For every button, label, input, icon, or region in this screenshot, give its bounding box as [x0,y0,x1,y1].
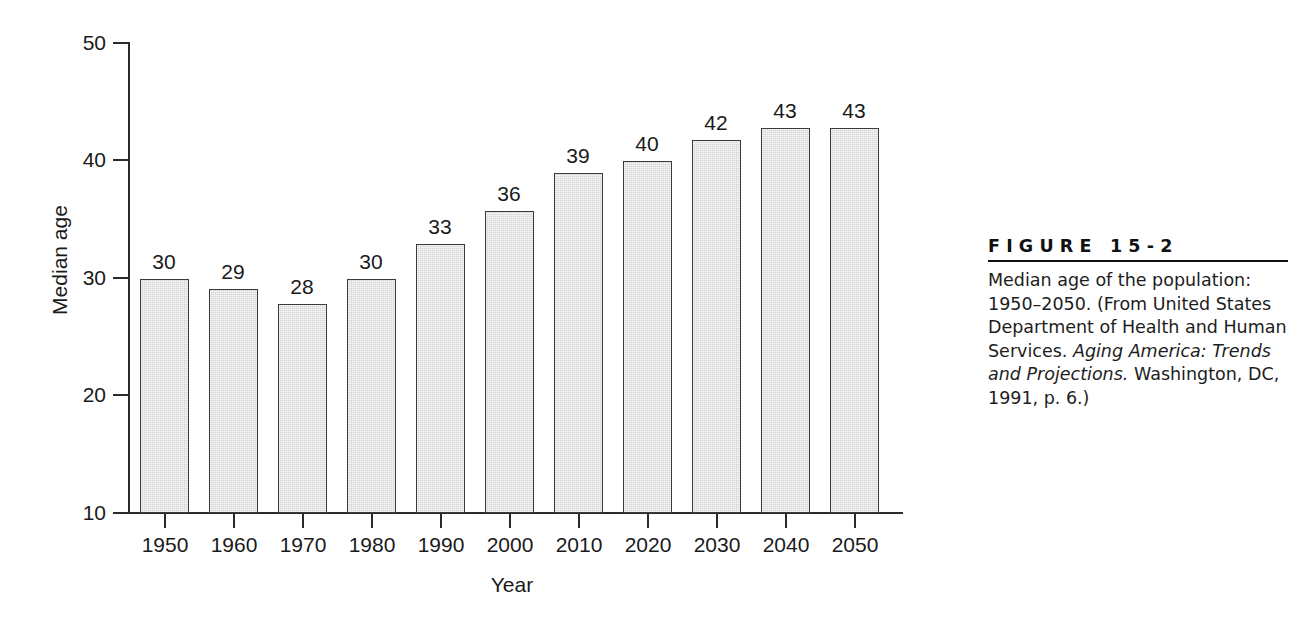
caption-line-5-italic: and Projections. [988,364,1128,384]
caption-line-5-post: Washington, DC, [1128,364,1279,384]
y-axis-title: Median age [48,160,72,360]
y-axis-line [128,42,130,513]
figure-root: 50 40 30 20 10 30 29 28 30 33 36 39 40 4… [0,0,1298,630]
y-tick-50 [113,42,128,44]
y-tick-20 [113,394,128,396]
bar-1990[interactable] [416,244,465,513]
x-tick-1970 [302,514,304,528]
caption-line-6: 1991, p. 6.) [988,388,1089,408]
bar-1960[interactable] [209,289,258,513]
x-tick-label-2050: 2050 [810,533,900,557]
x-tick-2030 [716,514,718,528]
x-tick-2050 [854,514,856,528]
x-tick-1950 [164,514,166,528]
x-tick-1960 [233,514,235,528]
bar-1970[interactable] [278,304,327,513]
y-tick-40 [113,159,128,161]
caption-line-2: 1950–2050. (From United States [988,294,1271,314]
caption-divider [988,260,1288,262]
bar-2030[interactable] [692,140,741,513]
bar-1980[interactable] [347,279,396,513]
bar-2000[interactable] [485,211,534,513]
bar-chart: 50 40 30 20 10 30 29 28 30 33 36 39 40 4… [0,0,960,630]
bar-1950[interactable] [140,279,189,513]
x-tick-1980 [371,514,373,528]
bar-value-2020: 40 [602,132,692,156]
y-tick-label-20: 20 [58,383,106,407]
bar-2050[interactable] [830,128,879,513]
x-tick-1990 [440,514,442,528]
caption-body: Median age of the population: 1950–2050.… [988,269,1288,411]
caption-line-4-italic: Aging America: Trends [1073,341,1271,361]
y-tick-label-10: 10 [58,501,106,525]
caption-line-4-pre: Services. [988,341,1073,361]
caption-line-3: Department of Health and Human [988,317,1287,337]
bar-value-1990: 33 [395,215,485,239]
caption-line-1: Median age of the population: [988,270,1251,290]
bar-value-1970: 28 [257,275,347,299]
x-tick-2040 [785,514,787,528]
bar-value-2000: 36 [464,182,554,206]
bar-value-2050: 43 [809,99,899,123]
bar-2020[interactable] [623,161,672,513]
bar-value-1980: 30 [326,250,416,274]
y-tick-10 [113,512,128,514]
y-tick-30 [113,277,128,279]
figure-caption: FIGURE 15-2 Median age of the population… [988,236,1288,411]
y-tick-label-50: 50 [58,31,106,55]
bar-2040[interactable] [761,128,810,513]
bar-2010[interactable] [554,173,603,513]
x-tick-2010 [578,514,580,528]
x-tick-2020 [647,514,649,528]
figure-number: FIGURE 15-2 [988,236,1288,256]
x-tick-2000 [509,514,511,528]
x-axis-title: Year [128,573,896,597]
